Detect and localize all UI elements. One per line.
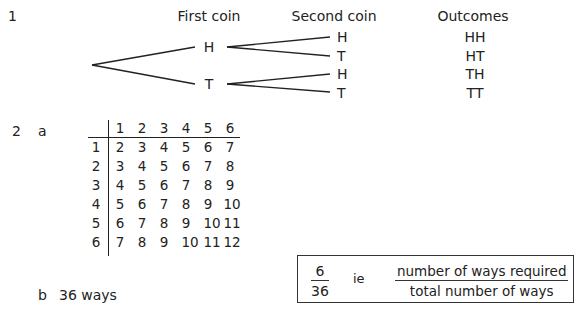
table-cell: 3 <box>110 160 130 174</box>
question-number-2: 2 <box>12 124 21 138</box>
col-header: 1 <box>110 122 130 136</box>
table-cell: 9 <box>176 217 196 231</box>
ie-label: ie <box>353 272 365 285</box>
table-cell: 7 <box>154 198 174 212</box>
word-fraction: number of ways required total number of … <box>395 263 568 299</box>
word-denominator: total number of ways <box>395 281 568 299</box>
outcome-th: TH <box>465 67 484 81</box>
row-header: 3 <box>86 179 106 193</box>
col-header: 2 <box>132 122 152 136</box>
part-b-label: b <box>38 288 47 302</box>
second-coin-h1: H <box>337 30 348 44</box>
table-cell: 6 <box>132 198 152 212</box>
col-header: 5 <box>198 122 218 136</box>
row-header: 2 <box>86 160 106 174</box>
outcome-ht: HT <box>465 49 484 63</box>
table-cell: 8 <box>154 217 174 231</box>
table-cell: 7 <box>110 236 130 250</box>
table-cell: 5 <box>154 160 174 174</box>
table-cell: 11 <box>202 236 222 250</box>
table-cell: 8 <box>198 179 218 193</box>
second-coin-t2: T <box>337 86 346 100</box>
col-header: 4 <box>176 122 196 136</box>
second-coin-t1: T <box>337 49 346 63</box>
outcome-tt: TT <box>467 86 484 100</box>
table-cell: 12 <box>222 236 242 250</box>
table-cell: 5 <box>176 141 196 155</box>
probability-box: 6 36 ie number of ways required total nu… <box>297 255 574 303</box>
fraction-numerator: 6 <box>311 263 329 281</box>
col-header: 6 <box>220 122 240 136</box>
table-cell: 9 <box>220 179 240 193</box>
table-cell: 7 <box>198 160 218 174</box>
row-header: 5 <box>86 217 106 231</box>
table-cell: 2 <box>110 141 130 155</box>
table-cell: 6 <box>154 179 174 193</box>
table-cell: 7 <box>132 217 152 231</box>
row-header: 1 <box>86 141 106 155</box>
table-cell: 7 <box>220 141 240 155</box>
table-cell: 6 <box>110 217 130 231</box>
table-cell: 5 <box>132 179 152 193</box>
table-cell: 7 <box>176 179 196 193</box>
row-header: 4 <box>86 198 106 212</box>
table-cell: 4 <box>110 179 130 193</box>
table-cell: 11 <box>222 217 242 231</box>
table-cell: 10 <box>202 217 222 231</box>
outcome-hh: HH <box>464 30 485 44</box>
tree-diagram-lines <box>0 0 579 110</box>
table-cell: 5 <box>110 198 130 212</box>
first-coin-heads: H <box>204 40 215 54</box>
first-coin-tails: T <box>205 77 214 91</box>
row-header: 6 <box>86 236 106 250</box>
fraction-denominator: 36 <box>311 281 329 299</box>
part-a-label: a <box>38 124 47 138</box>
table-cell: 9 <box>154 236 174 250</box>
table-cell: 4 <box>154 141 174 155</box>
table-cell: 10 <box>222 198 242 212</box>
table-cell: 10 <box>180 236 200 250</box>
table-cell: 6 <box>198 141 218 155</box>
table-cell: 3 <box>132 141 152 155</box>
word-numerator: number of ways required <box>395 263 568 281</box>
table-cell: 6 <box>176 160 196 174</box>
table-cell: 9 <box>198 198 218 212</box>
table-cell: 8 <box>132 236 152 250</box>
table-cell: 8 <box>220 160 240 174</box>
col-header: 3 <box>154 122 174 136</box>
table-cell: 8 <box>176 198 196 212</box>
second-coin-h2: H <box>337 67 348 81</box>
probability-fraction: 6 36 <box>311 263 329 299</box>
table-cell: 4 <box>132 160 152 174</box>
part-b-answer: 36 ways <box>59 288 117 302</box>
